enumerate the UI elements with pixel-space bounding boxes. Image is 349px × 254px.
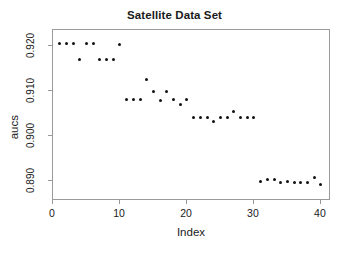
- data-point: [286, 180, 289, 183]
- chart-title: Satellite Data Set: [0, 9, 349, 21]
- data-point: [232, 110, 235, 113]
- y-axis-title-text: aucs: [8, 115, 20, 139]
- data-point: [226, 116, 229, 119]
- x-tick-label: 0: [39, 207, 65, 219]
- data-point: [306, 181, 309, 184]
- data-point: [65, 42, 68, 45]
- data-point: [273, 178, 276, 181]
- data-point: [293, 181, 296, 184]
- y-tick-label: 0.900: [25, 115, 39, 155]
- data-point: [319, 183, 322, 186]
- data-point: [259, 180, 262, 183]
- data-point: [132, 98, 135, 101]
- data-point: [279, 181, 282, 184]
- x-axis-title: Index: [52, 226, 330, 238]
- data-point: [192, 116, 195, 119]
- x-tick-mark: [52, 200, 53, 204]
- x-tick-mark: [253, 200, 254, 204]
- data-point: [85, 42, 88, 45]
- y-tick-label: 0.890: [25, 160, 39, 200]
- data-point: [252, 116, 255, 119]
- plot-area: [52, 29, 330, 200]
- data-point: [246, 116, 249, 119]
- x-tick-label: 40: [307, 207, 333, 219]
- x-tick-mark: [186, 200, 187, 204]
- x-tick-label: 10: [106, 207, 132, 219]
- y-tick-label: 0.910: [25, 70, 39, 110]
- scatter-points-layer: [53, 30, 329, 199]
- data-point: [172, 98, 175, 101]
- data-point: [145, 78, 148, 81]
- data-point: [199, 116, 202, 119]
- data-point: [92, 42, 95, 45]
- data-point: [159, 99, 162, 102]
- x-tick-mark: [320, 200, 321, 204]
- data-point: [78, 58, 81, 61]
- data-point: [206, 116, 209, 119]
- data-point: [72, 42, 75, 45]
- data-point: [313, 176, 316, 179]
- data-point: [105, 58, 108, 61]
- x-tick-label: 30: [240, 207, 266, 219]
- y-axis-title: aucs: [6, 0, 22, 254]
- data-point: [118, 43, 121, 46]
- data-point: [152, 90, 155, 93]
- data-point: [58, 42, 61, 45]
- data-point: [125, 98, 128, 101]
- data-point: [219, 116, 222, 119]
- data-point: [212, 120, 215, 123]
- data-point: [98, 58, 101, 61]
- x-tick-mark: [119, 200, 120, 204]
- data-point: [112, 58, 115, 61]
- data-point: [185, 98, 188, 101]
- data-point: [266, 178, 269, 181]
- data-point: [139, 98, 142, 101]
- data-point: [239, 116, 242, 119]
- data-point: [299, 181, 302, 184]
- data-point: [165, 90, 168, 93]
- x-tick-label: 20: [173, 207, 199, 219]
- y-tick-label: 0.920: [25, 25, 39, 65]
- data-point: [179, 103, 182, 106]
- chart-figure: Satellite Data Set 0.8900.9000.9100.920 …: [0, 0, 349, 254]
